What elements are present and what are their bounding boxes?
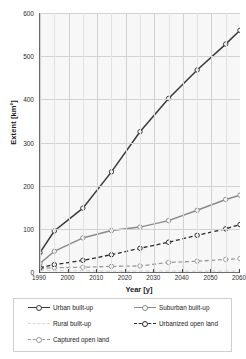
legend-marker-icon bbox=[36, 337, 42, 343]
x-tick-mark bbox=[210, 269, 211, 273]
legend-item-suburban-built-up[interactable]: Suburban built-up bbox=[134, 304, 209, 311]
vertical-gridline bbox=[40, 13, 41, 272]
x-tick-label: 2000 bbox=[53, 274, 83, 281]
y-tick-label: 500 bbox=[12, 53, 34, 60]
plot-area bbox=[39, 13, 240, 273]
chart-legend: Urban built-upSuburban built-upRural bui… bbox=[13, 298, 232, 352]
y-tick-label: 100 bbox=[12, 225, 34, 232]
vertical-gridline bbox=[183, 13, 184, 272]
vertical-gridline bbox=[197, 13, 198, 272]
legend-label: Rural built-up bbox=[53, 320, 91, 327]
vertical-gridline bbox=[211, 13, 212, 272]
legend-item-rural-built-up[interactable]: Rural built-up bbox=[28, 320, 91, 327]
legend-swatch bbox=[134, 304, 156, 311]
legend-swatch bbox=[28, 336, 50, 343]
x-tick-label: 2030 bbox=[138, 274, 168, 281]
y-tick-label: 400 bbox=[12, 96, 34, 103]
vertical-gridline bbox=[226, 13, 227, 272]
x-tick-label: 2040 bbox=[167, 274, 197, 281]
x-tick-label: 2020 bbox=[110, 274, 140, 281]
y-tick-label: 300 bbox=[12, 139, 34, 146]
vertical-gridline bbox=[83, 13, 84, 272]
x-tick-mark bbox=[96, 269, 97, 273]
legend-swatch bbox=[134, 320, 156, 327]
vertical-gridline bbox=[126, 13, 127, 272]
x-tick-mark bbox=[182, 269, 183, 273]
legend-swatch bbox=[28, 304, 50, 311]
vertical-gridline bbox=[54, 13, 55, 272]
x-tick-mark bbox=[239, 269, 240, 273]
vertical-gridline bbox=[97, 13, 98, 272]
x-tick-mark bbox=[39, 269, 40, 273]
x-tick-mark bbox=[153, 269, 154, 273]
legend-label: Suburban built-up bbox=[159, 304, 209, 311]
vertical-gridline bbox=[69, 13, 70, 272]
legend-item-urban-built-up[interactable]: Urban built-up bbox=[28, 304, 93, 311]
legend-label: Captured open land bbox=[53, 336, 109, 343]
legend-item-urbanized-open-land[interactable]: Urbanized open land bbox=[134, 320, 218, 327]
y-tick-label: 600 bbox=[12, 10, 34, 17]
x-axis-label: Year [y] bbox=[39, 285, 239, 294]
x-tick-label: 2010 bbox=[81, 274, 111, 281]
x-tick-mark bbox=[68, 269, 69, 273]
x-tick-label: 2060 bbox=[224, 274, 246, 281]
y-axis-ticks: 0100200300400500600 bbox=[12, 8, 34, 274]
legend-marker-icon bbox=[142, 321, 148, 327]
legend-marker-icon bbox=[142, 305, 148, 311]
vertical-gridline bbox=[154, 13, 155, 272]
legend-swatch bbox=[28, 320, 50, 327]
x-tick-label: 1990 bbox=[24, 274, 54, 281]
legend-label: Urban built-up bbox=[53, 304, 93, 311]
vertical-gridline bbox=[111, 13, 112, 272]
legend-label: Urbanized open land bbox=[159, 320, 218, 327]
plot-inner bbox=[40, 13, 240, 272]
vertical-gridline bbox=[169, 13, 170, 272]
chart-figure: Extent [km²] 0100200300400500600 1990200… bbox=[0, 0, 246, 359]
legend-marker-icon bbox=[36, 305, 42, 311]
x-tick-mark bbox=[125, 269, 126, 273]
legend-item-captured-open-land[interactable]: Captured open land bbox=[28, 336, 109, 343]
legend-line-icon bbox=[28, 323, 50, 324]
vertical-gridline bbox=[140, 13, 141, 272]
x-tick-label: 2050 bbox=[195, 274, 225, 281]
line-chart: Extent [km²] 0100200300400500600 1990200… bbox=[0, 0, 246, 290]
y-tick-label: 200 bbox=[12, 182, 34, 189]
